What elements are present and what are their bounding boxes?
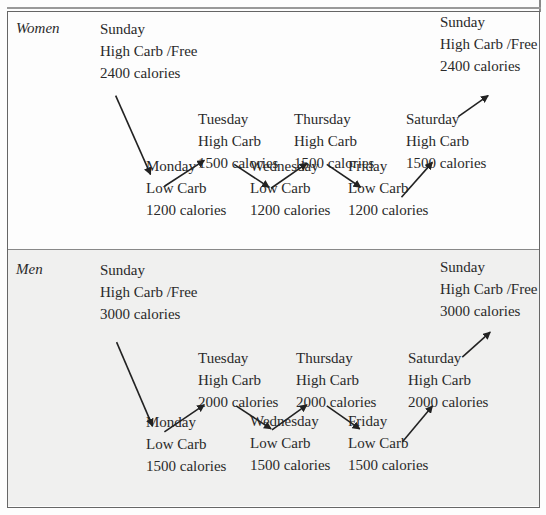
node-carb: Low Carb <box>250 177 330 199</box>
node-day: Thursday <box>296 347 376 369</box>
node-carb: Low Carb <box>348 177 428 199</box>
node-calories: 2000 calories <box>408 391 488 413</box>
node-carb: High Carb <box>198 130 278 152</box>
node-carb: High Carb /Free <box>440 278 537 300</box>
node-carb: Low Carb <box>250 432 330 454</box>
node-sunday-end: Sunday High Carb /Free 2400 calories <box>440 11 537 77</box>
node-carb: High Carb <box>296 369 376 391</box>
node-calories: 2400 calories <box>100 62 197 84</box>
node-day: Sunday <box>100 259 197 281</box>
node-monday: Monday Low Carb 1500 calories <box>146 411 226 477</box>
node-saturday: Saturday High Carb 2000 calories <box>408 347 488 413</box>
node-carb: High Carb /Free <box>100 281 197 303</box>
node-day: Sunday <box>100 18 197 40</box>
node-calories: 3000 calories <box>440 300 537 322</box>
node-day: Friday <box>348 410 428 432</box>
node-carb: High Carb <box>294 130 374 152</box>
node-calories: 1200 calories <box>250 199 330 221</box>
node-day: Thursday <box>294 108 374 130</box>
node-sunday-start: Sunday High Carb /Free 2400 calories <box>100 18 197 84</box>
node-calories: 1200 calories <box>146 199 226 221</box>
node-day: Sunday <box>440 256 537 278</box>
node-carb: High Carb /Free <box>100 40 197 62</box>
node-thursday: Thursday High Carb 2000 calories <box>296 347 376 413</box>
node-sunday-start: Sunday High Carb /Free 3000 calories <box>100 259 197 325</box>
node-tuesday: Tuesday High Carb 2000 calories <box>198 347 278 413</box>
node-wednesday: Wednesday Low Carb 1500 calories <box>250 410 330 476</box>
node-carb: Low Carb <box>348 432 428 454</box>
node-day: Saturday <box>406 108 486 130</box>
node-calories: 3000 calories <box>100 303 197 325</box>
diagram-frame: Women Sunday High Carb /Free 2400 calori… <box>7 11 540 508</box>
node-calories: 1500 calories <box>406 152 486 174</box>
node-calories: 1500 calories <box>146 455 226 477</box>
node-carb: High Carb /Free <box>440 33 537 55</box>
node-day: Saturday <box>408 347 488 369</box>
node-calories: 1200 calories <box>348 199 428 221</box>
node-saturday: Saturday High Carb 1500 calories <box>406 108 486 174</box>
section-label-men: Men <box>16 261 43 278</box>
node-calories: 1500 calories <box>348 454 428 476</box>
node-carb: High Carb <box>408 369 488 391</box>
node-carb: Low Carb <box>146 177 226 199</box>
node-day: Monday <box>146 411 226 433</box>
node-day: Tuesday <box>198 347 278 369</box>
node-day: Wednesday <box>250 410 330 432</box>
men-section: Men Sunday High Carb /Free 3000 calories… <box>8 250 539 506</box>
node-day: Tuesday <box>198 108 278 130</box>
node-carb: High Carb <box>198 369 278 391</box>
node-day: Sunday <box>440 11 537 33</box>
section-label-women: Women <box>16 20 60 37</box>
node-calories: 2400 calories <box>440 55 537 77</box>
node-sunday-end: Sunday High Carb /Free 3000 calories <box>440 256 537 322</box>
women-section: Women Sunday High Carb /Free 2400 calori… <box>8 12 539 250</box>
node-carb: High Carb <box>406 130 486 152</box>
node-calories: 1500 calories <box>250 454 330 476</box>
node-carb: Low Carb <box>146 433 226 455</box>
node-friday: Friday Low Carb 1500 calories <box>348 410 428 476</box>
